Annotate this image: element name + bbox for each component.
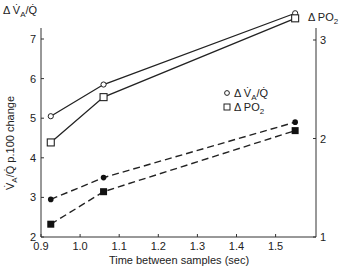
- legend-open-circle-icon: [225, 91, 230, 96]
- x-tick-label: 1.4: [229, 240, 244, 252]
- legend: Δ V̇A/Q̇ Δ PO2: [224, 87, 269, 116]
- x-tick-label: 1.0: [72, 240, 87, 252]
- x-tick-label: 1.3: [190, 240, 205, 252]
- x-tick-label: 1.5: [268, 240, 283, 252]
- open-square-marker-icon: [47, 139, 54, 146]
- open-circle-marker-icon: [48, 114, 53, 119]
- y-right-tick-label: 2: [320, 133, 326, 145]
- series-line-2: [51, 122, 295, 199]
- series-line-3: [51, 131, 295, 225]
- open-square-marker-icon: [292, 15, 299, 22]
- legend-label-va-q: Δ V̇A/Q̇: [234, 87, 269, 102]
- left-axis-top-label: Δ V̇A/Q̇: [3, 4, 38, 19]
- open-square-marker-icon: [100, 94, 107, 101]
- filled-circle-marker-icon: [292, 119, 298, 125]
- open-circle-marker-icon: [101, 82, 106, 87]
- y-left-tick-label: 5: [30, 112, 36, 124]
- right-axis-top-label: Δ PO2: [308, 11, 339, 26]
- series: [47, 11, 298, 228]
- filled-circle-marker-icon: [48, 197, 54, 203]
- filled-circle-marker-icon: [101, 175, 107, 181]
- y-left-tick-label: 2: [30, 231, 36, 243]
- x-tick-label: 1.1: [112, 240, 127, 252]
- legend-label-po2: Δ PO2: [234, 101, 265, 116]
- x-tick-label: 1.2: [151, 240, 166, 252]
- y-right-tick-label: 1: [320, 231, 326, 243]
- y-left-tick-label: 3: [30, 191, 36, 203]
- filled-square-marker-icon: [47, 221, 54, 228]
- series-line-1: [51, 18, 295, 142]
- y-left-tick-label: 7: [30, 33, 36, 45]
- y-left-tick-label: 6: [30, 73, 36, 85]
- left-axis-label: V̇A/Q̇ p.100 change: [4, 96, 19, 190]
- y-left-tick-label: 4: [30, 152, 36, 164]
- legend-open-square-icon: [224, 104, 230, 110]
- chart: 0.91.01.11.21.31.41.5234567123 Δ V̇A/Q̇ …: [0, 0, 339, 271]
- filled-square-marker-icon: [100, 188, 107, 195]
- y-right-tick-label: 3: [320, 34, 326, 46]
- x-axis-label: Time between samples (sec): [109, 254, 249, 266]
- filled-square-marker-icon: [292, 127, 299, 134]
